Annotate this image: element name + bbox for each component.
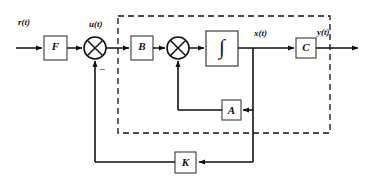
signal-label-output: y(t)	[317, 28, 330, 37]
block-diagram-canvas: r(t) u(t) x(t) y(t) − F B ∫ C A K	[0, 0, 367, 182]
block-a-label: A	[222, 105, 241, 116]
diagram-vector-layer	[0, 0, 367, 182]
block-f-label: F	[44, 41, 67, 52]
signal-label-control: u(t)	[89, 20, 103, 29]
signal-label-reference: r(t)	[18, 18, 30, 27]
signal-label-state: x(t)	[254, 29, 267, 38]
block-integrator-label: ∫	[206, 37, 238, 58]
input-sum-negative-sign: −	[99, 64, 105, 75]
block-c-label: C	[296, 42, 316, 53]
block-k-label: K	[175, 157, 196, 168]
block-b-label: B	[131, 41, 153, 52]
